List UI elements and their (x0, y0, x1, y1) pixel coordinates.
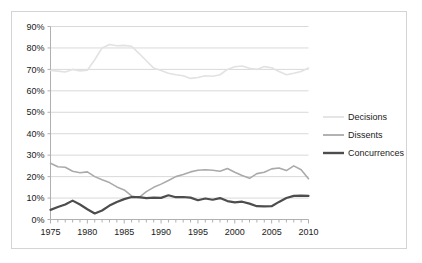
y-tick-label: 90% (26, 22, 44, 32)
x-tick-label: 1985 (114, 227, 134, 237)
y-tick-label: 10% (26, 193, 44, 203)
x-tick-label: 1980 (77, 227, 97, 237)
x-tick-labels: 19751980198519901995200020052010 (40, 227, 318, 237)
x-axis (51, 220, 309, 224)
y-tick-label: 70% (26, 65, 44, 75)
series-line-decisions (51, 45, 309, 79)
legend-label-dissents: Dissents (348, 130, 383, 140)
y-tick-label: 0% (31, 215, 44, 225)
y-axis (48, 27, 51, 220)
x-tick-label: 2010 (298, 227, 318, 237)
chart-figure: 0%10%20%30%40%50%60%70%80%90% 1975198019… (0, 0, 422, 263)
y-tick-label: 40% (26, 129, 44, 139)
x-tick-label: 1990 (151, 227, 171, 237)
x-tick-label: 2005 (262, 227, 282, 237)
y-tick-label: 80% (26, 43, 44, 53)
y-tick-label: 50% (26, 107, 44, 117)
x-tick-label: 1975 (40, 227, 60, 237)
line-chart: 0%10%20%30%40%50%60%70%80%90% 1975198019… (0, 0, 422, 263)
x-tick-label: 1995 (188, 227, 208, 237)
y-tick-label: 30% (26, 150, 44, 160)
series-line-dissents (51, 163, 309, 197)
y-tick-label: 20% (26, 172, 44, 182)
legend-label-concurrences: Concurrences (348, 148, 405, 158)
grid-lines (51, 27, 309, 220)
x-tick-label: 2000 (225, 227, 245, 237)
y-tick-label: 60% (26, 86, 44, 96)
y-tick-labels: 0%10%20%30%40%50%60%70%80%90% (26, 22, 44, 225)
chart-legend: DecisionsDissentsConcurrences (323, 112, 405, 158)
legend-label-decisions: Decisions (348, 112, 388, 122)
